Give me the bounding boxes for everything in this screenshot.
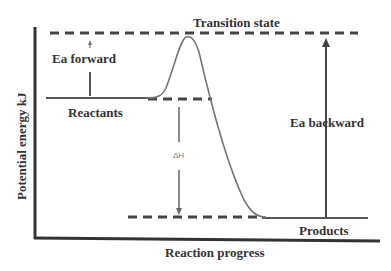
ea-forward-label: Ea forward <box>52 51 117 66</box>
arrowhead-down-icon <box>176 208 182 215</box>
arrowhead-up-icon <box>88 40 92 45</box>
transition-state-label: Transition state <box>193 15 280 30</box>
energy-diagram: Ea forward ΔH Ea backward Transition sta… <box>0 0 391 271</box>
y-axis-label: Potential energy kJ <box>14 92 29 200</box>
products-label: Products <box>299 223 349 238</box>
ea-backward-label: Ea backward <box>290 115 365 130</box>
delta-h-label: ΔH <box>173 151 184 160</box>
x-axis <box>34 238 380 241</box>
arrowhead-up-icon <box>322 38 330 47</box>
energy-curve <box>146 37 266 217</box>
x-axis-label: Reaction progress <box>165 245 265 260</box>
reactants-label: Reactants <box>68 105 123 120</box>
